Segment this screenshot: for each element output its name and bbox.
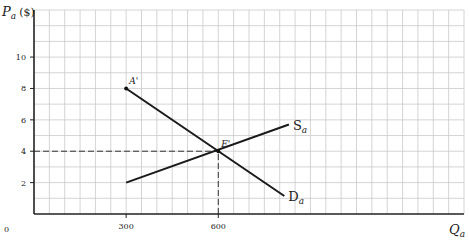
y-tick-label: 2	[21, 179, 26, 188]
x-axis-label: Qa	[449, 222, 465, 239]
d-a-label: Da	[288, 189, 304, 206]
x-tick-label: 300	[119, 222, 134, 231]
annotations: A'E'	[124, 76, 230, 153]
point-label: E'	[220, 139, 230, 149]
y-tick-label: 4	[21, 147, 26, 156]
grid	[34, 10, 464, 214]
point-marker	[216, 149, 220, 153]
y-tick-label: 8	[21, 84, 26, 93]
y-axis-label: Pa($)	[1, 4, 35, 21]
y-tick-label: 6	[21, 116, 26, 125]
x-tick-label: 600	[211, 222, 226, 231]
supply-demand-chart: SaDa 246810300600 A'E' Pa($) Qa 0	[0, 0, 469, 241]
point-marker	[124, 86, 128, 90]
d-a-curve	[126, 88, 284, 195]
ticks: 246810300600	[16, 53, 226, 231]
point-label: A'	[128, 76, 138, 86]
origin-label: 0	[4, 225, 9, 234]
y-tick-label: 10	[16, 53, 26, 62]
